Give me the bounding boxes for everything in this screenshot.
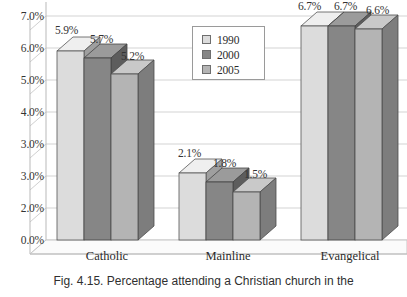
x-tick-label-mainline: Mainline [172,249,284,264]
x-axis-category-labels: Catholic Mainline Evangelical [0,249,407,268]
bar-value-label: 6.7% [334,0,357,12]
legend-item-2005[interactable]: 2005 [202,62,264,77]
legend-swatch-icon [202,35,211,44]
bar-value-label: 1.8% [213,157,236,169]
legend-swatch-icon [202,50,211,59]
legend-swatch-icon [202,65,211,74]
legend-item-1990[interactable]: 1990 [202,32,264,47]
bar-value-label: 5.2% [121,50,144,62]
bar-value-label: 6.7% [298,0,321,12]
legend-label: 1990 [217,34,239,46]
legend-item-2000[interactable]: 2000 [202,47,264,62]
bar-value-label: 5.7% [90,33,113,45]
x-tick-label-evangelical: Evangelical [294,249,406,264]
chart-legend[interactable]: 1990 2000 2005 [192,26,265,80]
figure-4-15: 7.0% 6.0% 5.0% 4.0% 3.0% 3.0% 2.0% 0.0% … [0,0,407,297]
bar-value-label: 1.5% [244,168,267,180]
legend-label: 2000 [217,49,239,61]
figure-caption: Fig. 4.15. Percentage attending a Christ… [0,274,407,289]
chart-plot-area: 7.0% 6.0% 5.0% 4.0% 3.0% 3.0% 2.0% 0.0% … [0,0,407,268]
legend-label: 2005 [217,64,239,76]
bar-value-label: 6.6% [366,4,389,16]
bar-value-label: 5.9% [55,24,78,36]
x-tick-label-catholic: Catholic [52,249,162,264]
bar-value-label: 2.1% [178,147,201,159]
